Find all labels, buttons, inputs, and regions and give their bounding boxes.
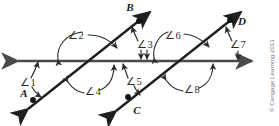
angle-6-label: ∠6 [165,30,180,41]
point-d-label: D [237,15,246,27]
point-a-dot [30,97,36,103]
point-c-label: C [133,104,141,116]
angle-4-label: ∠4 [85,86,101,97]
angle-4-arc-b [100,65,114,90]
angle-8-label: ∠8 [184,84,199,95]
angle-1-arc [31,62,38,78]
credit-group: © Cengage Learning 2013 [269,39,275,112]
credit-text: © Cengage Learning 2013 [269,39,275,112]
angle-4-arc [68,82,84,93]
angle-5-label: ∠5 [126,76,141,87]
point-d-dot [227,17,233,23]
angle-2-label: ∠2 [68,30,83,41]
angle-3-label: ∠3 [137,39,152,50]
point-c-dot [125,94,131,100]
point-b-dot [136,18,142,24]
point-b-label: B [125,1,133,13]
lines-group [18,12,252,111]
angle-1-arc-b [32,87,41,97]
angle-1-label: ∠1 [20,77,35,88]
angle-7-label: ∠7 [230,39,245,50]
geometry-figure: A B C D [0,0,279,126]
point-a-label: A [19,87,27,99]
angle-8-arc [166,80,183,91]
angle-8-arc-b [199,64,213,88]
figure-canvas: A B C D [0,0,279,126]
